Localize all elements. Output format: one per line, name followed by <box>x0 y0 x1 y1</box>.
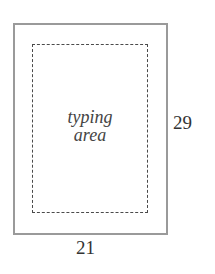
typing-area-label: typing area <box>32 108 148 144</box>
width-dimension-label: 21 <box>76 238 95 258</box>
typing-area-label-line2: area <box>32 126 148 144</box>
height-dimension-label: 29 <box>173 113 192 133</box>
typing-area-label-line1: typing <box>32 108 148 126</box>
